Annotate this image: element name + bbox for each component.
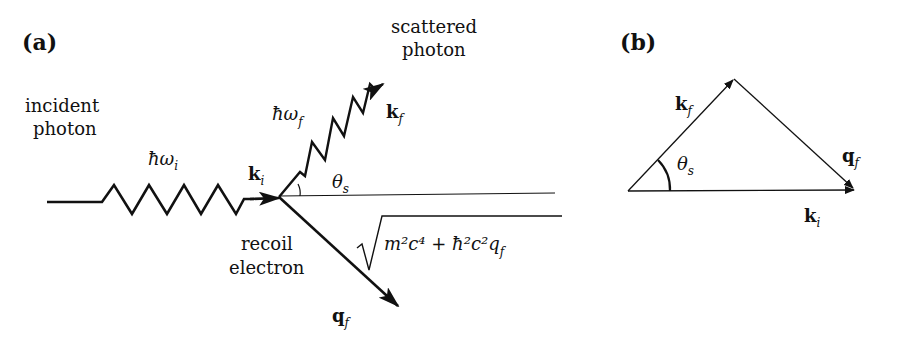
reference-axis-line	[279, 193, 555, 196]
ki-vector	[628, 190, 854, 191]
scattered-k-label: kf	[386, 101, 405, 126]
panel-a: (a) incident photon ħωi ki θs ħωf kf sca…	[22, 16, 562, 330]
scattered-energy-label: ħωf	[272, 103, 305, 129]
incident-photon-line	[47, 185, 254, 214]
angle-arc-a	[298, 184, 300, 196]
theta-s-label-a: θs	[332, 171, 349, 196]
scattered-photon-label-2: photon	[402, 39, 466, 60]
incident-photon-label-1: incident	[25, 95, 100, 116]
panel-b: (b) kf qf ki θs	[620, 29, 862, 230]
incident-energy-label: ħωi	[148, 148, 178, 173]
scattered-photon-line	[279, 84, 376, 197]
recoil-electron-label-1: recoil	[241, 233, 293, 254]
angle-arc-b	[658, 160, 670, 191]
kf-label: kf	[675, 93, 694, 118]
incident-photon-label-2: photon	[33, 118, 97, 139]
compton-scattering-diagram: (a) incident photon ħωi ki θs ħωf kf sca…	[0, 0, 899, 348]
incident-arrow	[250, 198, 279, 199]
qf-label: qf	[842, 145, 862, 170]
panel-b-label: (b)	[620, 29, 656, 55]
diagram-svg: (a) incident photon ħωi ki θs ħωf kf sca…	[0, 0, 899, 348]
incident-k-label: ki	[248, 163, 264, 188]
recoil-electron-arrow	[279, 197, 398, 306]
qf-vector	[734, 79, 853, 188]
electron-energy-expression: m²c⁴ + ħ²c²qf	[384, 233, 507, 259]
panel-a-label: (a)	[22, 29, 57, 55]
recoil-electron-label-2: electron	[229, 257, 305, 278]
theta-s-label-b: θs	[677, 153, 694, 178]
electron-q-label: qf	[332, 305, 352, 330]
scattered-photon-label-1: scattered	[391, 16, 477, 37]
ki-label: ki	[804, 205, 820, 230]
